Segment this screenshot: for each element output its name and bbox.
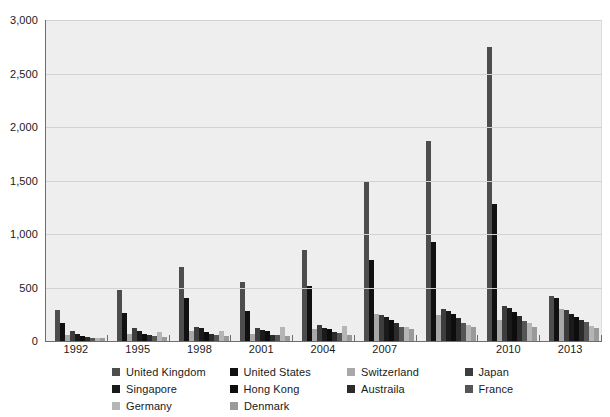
y-axis-tick-label: 2,500 bbox=[10, 68, 38, 80]
legend-swatch-icon bbox=[230, 368, 238, 376]
bar bbox=[285, 336, 290, 341]
legend-label: Switzerland bbox=[361, 366, 419, 378]
legend-row: United KingdomUnited StatesSwitzerlandJa… bbox=[112, 363, 582, 380]
x-axis-tick-label: 1992 bbox=[45, 343, 107, 361]
bar bbox=[224, 336, 229, 341]
legend-label: United Kingdom bbox=[126, 366, 206, 378]
x-axis-tick-label: 1998 bbox=[169, 343, 231, 361]
legend-item[interactable]: Denmark bbox=[230, 400, 348, 412]
legend-item[interactable]: United Kingdom bbox=[112, 366, 230, 378]
gridline bbox=[46, 288, 602, 289]
x-axis-tick-label: 2001 bbox=[230, 343, 292, 361]
legend-item[interactable]: Switzerland bbox=[347, 366, 465, 378]
bar bbox=[162, 337, 167, 341]
legend-label: Hong Kong bbox=[244, 383, 300, 395]
legend-swatch-icon bbox=[112, 385, 120, 393]
legend-label: Singapore bbox=[126, 383, 177, 395]
bar bbox=[594, 328, 599, 341]
bar bbox=[471, 327, 476, 341]
bar bbox=[409, 329, 414, 341]
legend-item[interactable]: United States bbox=[230, 366, 348, 378]
axis-tick-mark bbox=[601, 335, 602, 341]
legend-label: United States bbox=[244, 366, 311, 378]
legend-item[interactable]: Singapore bbox=[112, 383, 230, 395]
bar bbox=[347, 335, 352, 341]
y-axis-tick-label: 1,000 bbox=[10, 228, 38, 240]
legend-swatch-icon bbox=[465, 368, 473, 376]
legend-item[interactable]: France bbox=[465, 383, 583, 395]
legend-item[interactable]: Austraila bbox=[347, 383, 465, 395]
gridline bbox=[46, 127, 602, 128]
y-axis-tick-label: 500 bbox=[19, 282, 38, 294]
legend-row: GermanyDenmark bbox=[112, 397, 582, 414]
legend-item[interactable]: Germany bbox=[112, 400, 230, 412]
legend-swatch-icon bbox=[347, 368, 355, 376]
bar-chart: 3,0002,5002,0001,5001,0005000 1992199519… bbox=[0, 0, 610, 417]
gridline bbox=[46, 74, 602, 75]
legend-swatch-icon bbox=[230, 402, 238, 410]
plot-area bbox=[45, 20, 602, 342]
legend-row: SingaporeHong KongAustrailaFrance bbox=[112, 380, 582, 397]
x-axis-tick-label: 1995 bbox=[107, 343, 169, 361]
gridline bbox=[46, 234, 602, 235]
legend-label: Austraila bbox=[361, 383, 405, 395]
legend-label: Denmark bbox=[244, 400, 289, 412]
legend-swatch-icon bbox=[112, 402, 120, 410]
bar bbox=[532, 327, 537, 341]
legend-label: Germany bbox=[126, 400, 172, 412]
x-axis-tick-label: 2004 bbox=[292, 343, 354, 361]
x-axis-tick-label: 2007 bbox=[354, 343, 416, 361]
x-axis-tick-label: 2013 bbox=[539, 343, 601, 361]
x-axis-tick-label: 2010 bbox=[477, 343, 539, 361]
legend-swatch-icon bbox=[230, 385, 238, 393]
y-axis-tick-label: 3,000 bbox=[10, 14, 38, 26]
y-axis-tick-label: 1,500 bbox=[10, 175, 38, 187]
legend-item[interactable]: Hong Kong bbox=[230, 383, 348, 395]
gridline bbox=[46, 181, 602, 182]
chart-legend: United KingdomUnited StatesSwitzerlandJa… bbox=[112, 363, 582, 414]
y-axis-tick-label: 2,000 bbox=[10, 121, 38, 133]
y-axis: 3,0002,5002,0001,5001,0005000 bbox=[0, 0, 44, 352]
legend-swatch-icon bbox=[112, 368, 120, 376]
legend-item[interactable]: Japan bbox=[465, 366, 583, 378]
y-axis-tick-label: 0 bbox=[32, 335, 38, 347]
gridline bbox=[46, 20, 602, 21]
legend-swatch-icon bbox=[347, 385, 355, 393]
legend-label: Japan bbox=[479, 366, 509, 378]
x-axis: 199219951998200120042007 20102013 bbox=[45, 343, 601, 361]
legend-label: France bbox=[479, 383, 514, 395]
bar bbox=[100, 338, 105, 341]
legend-swatch-icon bbox=[465, 385, 473, 393]
